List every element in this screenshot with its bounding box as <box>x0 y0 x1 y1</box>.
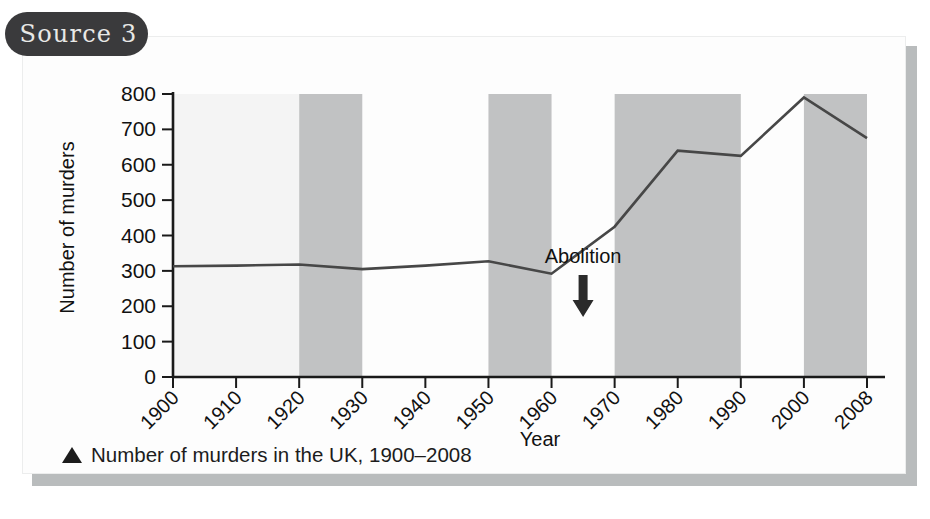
y-tick-label-400: 400 <box>121 224 156 247</box>
chart-band-1950-1960 <box>488 94 551 377</box>
x-axis-title: Year <box>520 428 561 450</box>
y-axis-title: Number of murders <box>56 141 78 313</box>
source-badge: Source 3 <box>5 12 148 56</box>
annotation-label-abolition: Abolition <box>545 245 622 267</box>
x-tick-label-1920: 1920 <box>262 386 309 433</box>
y-tick-label-0: 0 <box>144 365 156 388</box>
chart-band-2000-2008 <box>804 94 867 377</box>
figure-caption: Number of murders in the UK, 1900–2008 <box>62 443 472 467</box>
y-tick-label-600: 600 <box>121 153 156 176</box>
y-tick-label-700: 700 <box>121 117 156 140</box>
x-tick-label-1900: 1900 <box>136 386 183 433</box>
x-tick-label-1980: 1980 <box>641 386 688 433</box>
chart-band-1920-1930 <box>299 94 362 377</box>
y-tick-label-200: 200 <box>121 294 156 317</box>
source-badge-label: Source 3 <box>16 20 138 48</box>
chart-figure: 0100200300400500600700800190019101920193… <box>22 36 906 474</box>
chart-band-1970-1990 <box>615 94 741 377</box>
x-tick-label-1910: 1910 <box>199 386 246 433</box>
y-tick-label-100: 100 <box>121 330 156 353</box>
figure-caption-text: Number of murders in the UK, 1900–2008 <box>91 443 472 467</box>
x-tick-label-1940: 1940 <box>388 386 435 433</box>
x-tick-label-1990: 1990 <box>704 386 751 433</box>
x-tick-label-1960: 1960 <box>514 386 561 433</box>
murders-line-chart: 0100200300400500600700800190019101920193… <box>22 36 906 474</box>
x-tick-label-2008: 2008 <box>830 386 877 433</box>
x-tick-label-1970: 1970 <box>577 386 624 433</box>
x-tick-label-1930: 1930 <box>325 386 372 433</box>
chart-band-1900-1920 <box>173 94 299 377</box>
triangle-up-icon <box>62 447 82 463</box>
y-tick-label-300: 300 <box>121 259 156 282</box>
x-tick-label-2000: 2000 <box>767 386 814 433</box>
screenshot-root: Source 3 0100200300400500600700800190019… <box>0 0 930 519</box>
y-tick-label-800: 800 <box>121 82 156 105</box>
annotation-arrow-abolition <box>573 275 594 317</box>
x-tick-label-1950: 1950 <box>451 386 498 433</box>
y-tick-label-500: 500 <box>121 188 156 211</box>
